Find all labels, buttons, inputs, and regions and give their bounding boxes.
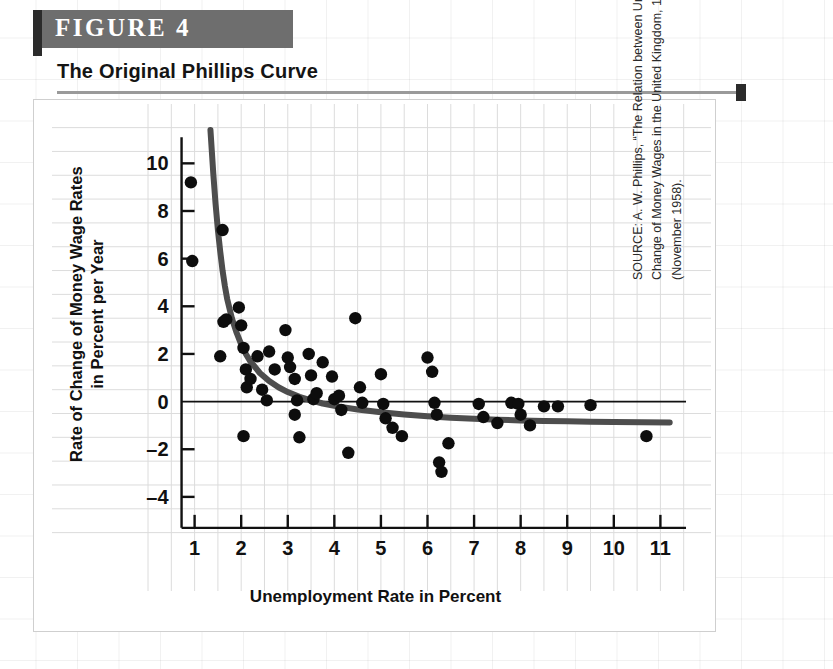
svg-text:1: 1 [189,537,200,559]
svg-text:2: 2 [157,343,168,365]
svg-text:3: 3 [282,537,293,559]
figure-title-rule-endcap [736,84,746,101]
figure-header: FIGURE 4 The Original Phillips Curve [33,10,713,50]
x-axis-title: Unemployment Rate in Percent [34,587,717,607]
source-note: SOURCE: A. W. Phillips, “The Relation be… [629,0,687,280]
svg-text:6: 6 [157,248,168,270]
svg-text:11: 11 [650,537,671,559]
svg-text:6: 6 [422,537,433,559]
svg-text:0: 0 [157,391,168,413]
chart-axes [182,137,686,528]
figure-banner-label: FIGURE 4 [55,14,191,42]
svg-text:9: 9 [562,537,573,559]
figure-banner: FIGURE 4 [33,10,293,48]
phillips-curve-chart: 1086420–2–41234567891011 [34,100,715,631]
svg-text:5: 5 [375,537,386,559]
figure-banner-edge-accent [33,10,42,56]
figure-title: The Original Phillips Curve [57,60,318,83]
svg-text:2: 2 [236,537,247,559]
svg-text:8: 8 [157,200,168,222]
svg-text:8: 8 [515,537,526,559]
svg-text:–4: –4 [146,486,169,508]
svg-text:4: 4 [157,295,169,317]
svg-text:10: 10 [146,152,168,174]
svg-text:–2: –2 [146,438,168,460]
source-prefix: SOURCE: A. W. Phillips, “The Relation be… [631,0,664,280]
chart-panel: 1086420–2–41234567891011 Rate of Change … [33,99,716,632]
fitted-phillips-curve [210,130,669,423]
y-axis-title: Rate of Change of Money Wage Rates in Pe… [66,154,108,474]
svg-text:7: 7 [469,537,480,559]
y-axis-title-line2: in Percent per Year [87,154,108,474]
y-axis-title-line1: Rate of Change of Money Wage Rates [66,154,87,474]
svg-text:10: 10 [603,537,625,559]
scatter-points [185,176,653,478]
svg-text:4: 4 [329,537,341,559]
